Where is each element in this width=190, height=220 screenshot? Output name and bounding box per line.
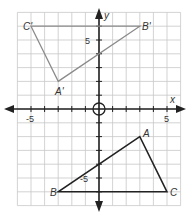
y-axis-up-arrow-icon (95, 8, 103, 19)
vertex-label-b-prime: B' (142, 21, 152, 32)
x-tick-label-5: 5 (164, 114, 169, 124)
vertex-label-b: B (50, 187, 57, 198)
vertex-label-a-prime: A' (54, 86, 65, 97)
coordinate-plane: x y -5 5 5 -5 A' B' C' A B C (0, 0, 190, 220)
y-axis-label: y (103, 10, 110, 21)
vertex-label-a: A (142, 128, 150, 139)
y-axis-down-arrow-icon (95, 201, 103, 212)
x-axis-left-arrow-icon (4, 105, 14, 113)
vertex-label-c-prime: C' (23, 21, 33, 32)
x-tick-label-neg5: -5 (26, 114, 34, 124)
y-tick-label-5: 5 (85, 36, 90, 46)
vertex-label-c: C (170, 187, 178, 198)
x-axis-label: x (169, 94, 176, 105)
